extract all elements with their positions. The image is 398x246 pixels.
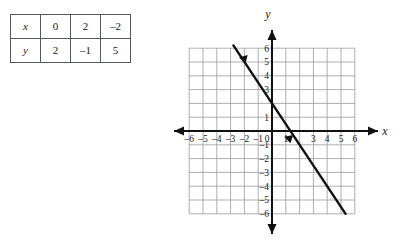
tick-label-y-5: 5 <box>264 57 269 67</box>
tick-label-y-4: 4 <box>264 71 269 81</box>
tick-label-y--2: –2 <box>259 154 270 164</box>
tick-label-x--6: –6 <box>183 134 194 144</box>
coordinate-graph: –6–5–4–3–2–1013456–6–5–4–3–2–113456 x y <box>160 0 398 246</box>
table-row: y 2 –1 5 <box>11 39 131 63</box>
x-axis-right-arrow-icon <box>368 127 378 136</box>
table-row: x 0 2 –2 <box>11 15 131 39</box>
tick-label-x--2: –2 <box>239 134 250 144</box>
table-cell-y-0: 2 <box>41 39 71 63</box>
tick-label-y--4: –4 <box>259 182 270 192</box>
x-axis-label: x <box>381 124 388 138</box>
xy-value-table: x 0 2 –2 y 2 –1 5 <box>10 14 131 63</box>
tick-label-y--3: –3 <box>259 168 270 178</box>
tick-label-x--3: –3 <box>225 134 236 144</box>
tick-label-y--5: –5 <box>259 195 270 205</box>
table-cell-y-1: –1 <box>71 39 101 63</box>
tick-label-y-6: 6 <box>264 44 269 54</box>
y-axis-label: y <box>264 7 271 21</box>
tick-label-x-5: 5 <box>339 134 344 144</box>
tick-label-y--6: –6 <box>259 209 270 219</box>
y-axis-down-arrow-icon <box>268 224 277 234</box>
tick-label-x-3: 3 <box>311 134 316 144</box>
table-cell-x-1: 2 <box>71 15 101 39</box>
tick-label-y--1: –1 <box>259 140 270 150</box>
table-cell-x-2: –2 <box>101 15 131 39</box>
table-cell-x-0: 0 <box>41 15 71 39</box>
table-cell-y-2: 5 <box>101 39 131 63</box>
tick-label-x--4: –4 <box>211 134 222 144</box>
tick-label-y-1: 1 <box>264 113 269 123</box>
plotted-line <box>233 45 345 213</box>
tick-label-x-6: 6 <box>352 134 357 144</box>
tick-label-y-3: 3 <box>264 85 269 95</box>
y-axis-up-arrow-icon <box>268 30 277 40</box>
tick-label-x-4: 4 <box>325 134 330 144</box>
x-axis-left-arrow-icon <box>174 127 184 136</box>
graph-svg: –6–5–4–3–2–1013456–6–5–4–3–2–113456 x y <box>160 0 398 246</box>
tick-label-x--5: –5 <box>197 134 208 144</box>
table-row-header-y: y <box>11 39 41 63</box>
tick-label-x-1: 1 <box>283 134 288 144</box>
table-row-header-x: x <box>11 15 41 39</box>
